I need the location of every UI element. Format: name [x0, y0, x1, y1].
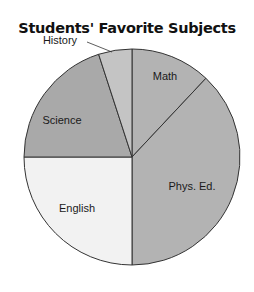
slice-label-english: English	[59, 202, 95, 214]
slice-label-science: Science	[42, 114, 81, 126]
slice-label-math: Math	[153, 70, 177, 82]
pie-slices	[24, 49, 240, 265]
slice-label-phys-ed: Phys. Ed.	[168, 180, 215, 192]
history-leader-line	[87, 42, 112, 52]
pie-chart: MathPhys. Ed.EnglishScienceHistory	[0, 0, 254, 292]
slice-label-history: History	[43, 34, 78, 46]
